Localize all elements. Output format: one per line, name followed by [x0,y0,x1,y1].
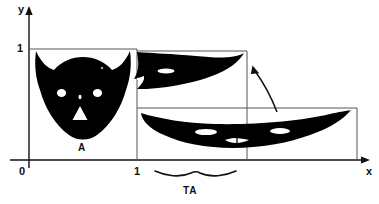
shape-a-muzzle-dot [79,95,82,99]
shape-ta-flattened [141,110,351,148]
y-axis-arrowhead [25,6,32,15]
x-tick-label-1: 1 [134,166,140,177]
transform-arrow-head [251,66,259,75]
transformation-diagram: y x 1 0 1 A TA [0,0,379,204]
shape-intermediate-sheared [134,52,244,89]
shape-intermediate-left-eye [158,68,175,73]
shape-a-forehead-speck [101,67,103,69]
ta-brace [155,171,236,176]
transform-arrow [251,66,277,113]
shape-a-body [35,51,131,140]
region-ta-label: TA [183,186,198,196]
y-tick-label-1: 1 [17,43,23,54]
x-axis-arrowhead [361,156,370,163]
shape-a-left-eye [57,89,66,97]
shape-intermediate-body [134,52,244,89]
region-a-label: A [78,143,85,153]
y-axis-label: y [18,4,24,15]
transform-arrow-curve [255,71,277,112]
shape-ta-body [141,110,351,148]
ta-brace-path [155,171,236,176]
shape-ta-left-eye [195,129,217,135]
x-axis-label: x [366,166,372,177]
origin-label: 0 [19,166,25,177]
diagram-canvas [0,0,379,204]
shape-a-catface [35,51,131,140]
shape-ta-right-eye [270,128,290,134]
shape-a-right-eye [93,89,102,97]
